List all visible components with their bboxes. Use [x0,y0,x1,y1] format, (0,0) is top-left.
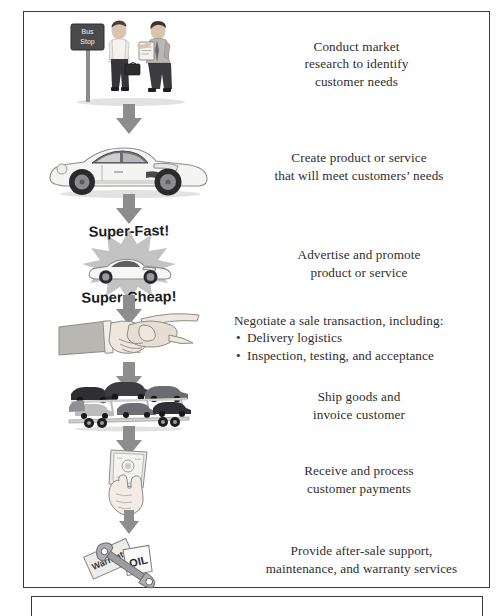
bus-stop-sign-line2: Stop [80,38,95,46]
caption-line: Advertise and promote [234,246,484,264]
wheel-front [69,169,95,195]
lower-deck-cars [75,402,191,419]
caption-negotiate: Negotiate a sale transaction, including:… [234,312,494,365]
illustration-white-sports-car [24,134,234,200]
flow-step-negotiate: Negotiate a sale transaction, including:… [24,309,494,367]
down-arrow-2 [24,194,234,224]
bullet-item: Inspection, testing, and acceptance [247,347,494,365]
bus-stop-sign-line1: Bus [81,28,94,35]
caption-line: Provide after-sale support, [234,542,489,560]
person-right [139,21,172,92]
caption-line: research to identify [234,55,479,73]
caption-line: product or service [234,264,484,282]
caption-line: invoice customer [234,406,484,424]
caption-line: that will meet customers’ needs [234,167,484,185]
flow-step-create-product: Create product or service that will meet… [24,134,484,200]
down-arrow-1 [24,104,234,134]
caption-market-research: Conduct market research to identify cust… [234,38,479,91]
illustration-car-advertisement-starburst: Super-Fast! Super-Cheap! [24,222,234,306]
flow-step-after-sale-support: Warranty OIL Provide after-sale suppor [24,528,489,592]
caption-line: Receive and process [234,462,484,480]
illustration-hand-holding-money [24,444,234,516]
wheel-rear [154,169,181,196]
flow-step-receive-payment: Receive and process customer payments [24,444,484,516]
illustration-handshake [24,309,234,367]
flow-step-advertise: Super-Fast! Super-Cheap! Advertise and p… [24,222,484,306]
negotiate-bullet-list: Delivery logistics Inspection, testing, … [234,329,494,364]
ad-label-super-fast: Super-Fast! [88,222,169,239]
illustration-two-businessmen-at-bus-stop: Bus Stop [24,18,234,110]
caption-ship-invoice: Ship goods and invoice customer [234,388,484,423]
secondary-frame [31,596,483,616]
flow-step-ship-invoice: Ship goods and invoice customer [24,380,484,432]
caption-advertise: Advertise and promote product or service [234,246,484,281]
caption-line: Conduct market [234,38,479,56]
person-left [109,21,140,92]
caption-receive-payment: Receive and process customer payments [234,462,484,497]
caption-create-product: Create product or service that will meet… [234,149,484,184]
caption-line: customer needs [234,73,479,91]
bullet-item: Delivery logistics [247,329,494,347]
diagram-frame: Bus Stop [23,11,490,588]
caption-line: Negotiate a sale transaction, including: [234,312,494,330]
caption-line: Create product or service [234,149,484,167]
caption-after-sale-support: Provide after-sale support, maintenance,… [234,542,489,577]
caption-line: maintenance, and warranty services [234,560,489,578]
caption-line: customer payments [234,480,484,498]
caption-line: Ship goods and [234,388,484,406]
flow-step-market-research: Bus Stop [24,18,479,110]
illustration-car-carrier-transport-truck [24,380,234,432]
illustration-warranty-oil-wrench: Warranty OIL [24,528,234,592]
